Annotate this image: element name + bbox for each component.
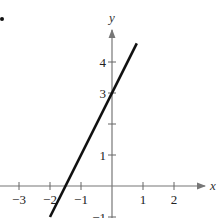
y-tick-label: −1 — [92, 210, 106, 218]
y-axis-label: y — [107, 10, 115, 25]
bullet-marker — [0, 17, 4, 21]
x-tick-label: −1 — [74, 192, 88, 207]
y-tick-label: 4 — [100, 55, 107, 70]
y-tick-label: 1 — [100, 148, 107, 163]
data-series — [50, 43, 137, 217]
line-graph: −3−2−112−1134 x y — [0, 0, 219, 218]
x-tick-label: −3 — [12, 192, 26, 207]
x-axis-label: x — [209, 178, 216, 193]
ticks: −3−2−112−1134 — [12, 55, 177, 218]
y-tick-label: 3 — [100, 86, 107, 101]
x-tick-label: 2 — [171, 192, 178, 207]
x-tick-label: 1 — [140, 192, 147, 207]
line-series — [50, 43, 137, 217]
